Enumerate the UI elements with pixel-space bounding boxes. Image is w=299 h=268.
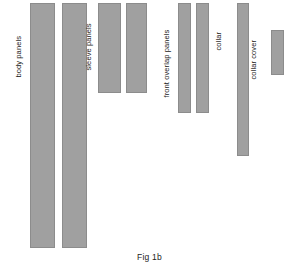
panel-group-label-front-overlap-panels: front overlap panels	[163, 30, 171, 98]
panel-group-label-collar: collar	[215, 32, 223, 51]
pattern-piece-sleeve-panels-2	[126, 3, 147, 93]
pattern-piece-sleeve-panels-1	[98, 3, 121, 93]
figure-caption: Fig 1b	[0, 252, 299, 262]
pattern-piece-collar-cover-1	[271, 30, 284, 75]
pattern-piece-front-overlap-panels-1	[178, 3, 191, 113]
panel-group-label-sleeve-panels: sleeve panels	[85, 23, 93, 70]
pattern-piece-front-overlap-panels-2	[196, 3, 209, 113]
panel-group-label-body-panels: body panels	[15, 36, 23, 78]
figure-container: body panelssleeve panelsfront overlap pa…	[0, 0, 299, 268]
pattern-piece-body-panels-1	[30, 3, 55, 248]
pattern-piece-collar-1	[237, 3, 249, 156]
panel-group-label-collar-cover: collar cover	[250, 40, 258, 80]
